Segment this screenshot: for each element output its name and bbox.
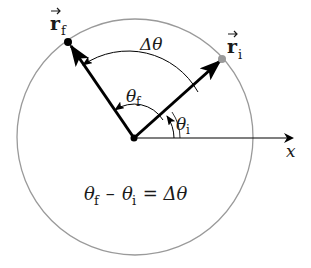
- final-point: [64, 38, 72, 46]
- origin-point: [131, 135, 138, 142]
- label-theta-i: θ: [176, 114, 186, 134]
- equation-rhs: = Δθ: [137, 183, 188, 204]
- angular-displacement-diagram: r f r i Δθ θ f θ i x θ f – θ i = Δθ: [0, 0, 311, 268]
- label-r-final: r: [50, 12, 61, 34]
- label-delta-theta: Δθ: [139, 34, 163, 54]
- label-theta-f-sub: f: [136, 95, 142, 109]
- vector-r-final: [71, 46, 134, 138]
- diagram-canvas: r f r i Δθ θ f θ i x θ f – θ i = Δθ: [0, 0, 311, 268]
- delta-theta-arc: [83, 51, 198, 92]
- label-theta-f: θ: [126, 86, 136, 106]
- equation-sub-i: i: [132, 193, 136, 208]
- label-r-initial-sub: i: [238, 47, 242, 62]
- initial-point: [218, 55, 226, 63]
- theta-i-arc: [167, 116, 174, 138]
- label-r-initial: r: [227, 35, 238, 57]
- equation: θ f – θ i = Δθ: [84, 183, 188, 208]
- label-x-axis: x: [286, 141, 296, 161]
- label-r-final-sub: f: [61, 23, 67, 38]
- equation-minus: –: [100, 183, 120, 204]
- label-theta-i-sub: i: [186, 123, 190, 137]
